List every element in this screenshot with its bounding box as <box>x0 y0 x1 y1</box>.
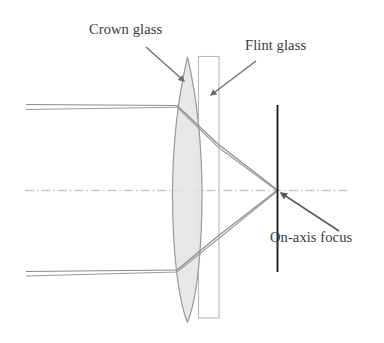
optics-canvas <box>0 0 384 343</box>
crown-glass-leader-line <box>146 47 184 81</box>
crown-glass-label: Crown glass <box>89 22 162 37</box>
lower-exit-ray-b <box>218 191 278 239</box>
upper-exit-ray-a <box>218 144 278 190</box>
optics-diagram: Crown glass Flint glass On-axis focus <box>0 0 384 343</box>
flint-glass-label: Flint glass <box>245 38 306 53</box>
upper-incoming-ray-b <box>26 107 177 109</box>
lower-incoming-ray-a <box>26 270 177 272</box>
lower-incoming-ray-b <box>26 272 177 276</box>
upper-incoming-ray-a <box>26 105 177 106</box>
flint-glass-leader-line <box>211 61 256 95</box>
on-axis-focus-leader-line <box>281 193 339 231</box>
upper-exit-ray-b <box>218 147 278 191</box>
crown-glass-lens <box>173 57 203 322</box>
on-axis-focus-label: On-axis focus <box>270 230 352 245</box>
lower-exit-ray-a <box>218 190 278 236</box>
